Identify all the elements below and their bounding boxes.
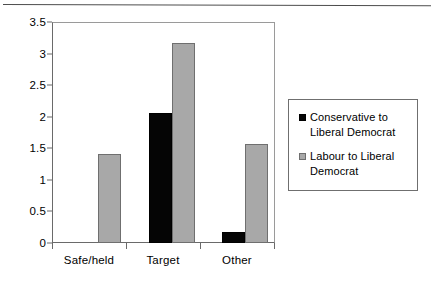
- legend-swatch-icon: [299, 114, 306, 121]
- y-tick-label: 0: [39, 237, 46, 249]
- legend-label-line2: Liberal Democrat: [310, 126, 395, 138]
- legend-label-line2: Democrat: [310, 165, 358, 177]
- bar-group-other: [200, 23, 274, 243]
- bar-labour-safe-held: [98, 154, 121, 243]
- legend-label-conservative: Conservative toLiberal Democrat: [310, 110, 395, 139]
- y-axis: 3.5 3 2.5 2 1.5 1 0.5 0: [0, 22, 46, 243]
- header-divider-rule: [3, 4, 431, 6]
- y-tick-label: 3.5: [29, 16, 46, 28]
- x-tick-mark: [126, 243, 127, 249]
- y-tick-label: 2.5: [29, 79, 46, 91]
- legend-item-labour: Labour to LiberalDemocrat: [299, 149, 413, 178]
- bar-labour-target: [172, 43, 195, 244]
- legend-label-line1: Conservative to: [310, 111, 388, 123]
- bar-conservative-other: [222, 232, 245, 243]
- bar-conservative-target: [149, 113, 172, 243]
- y-tick-label: 3: [39, 48, 46, 60]
- legend-item-conservative: Conservative toLiberal Democrat: [299, 110, 413, 139]
- legend-label-labour: Labour to LiberalDemocrat: [310, 149, 394, 178]
- bar-group-target: [127, 23, 201, 243]
- bars-layer: [53, 23, 274, 243]
- x-cat-label-safe-held: Safe/held: [64, 253, 114, 267]
- x-cat-label-other: Other: [222, 253, 252, 267]
- x-tick-mark: [52, 243, 53, 249]
- y-tick-label: 2: [39, 111, 46, 123]
- x-cat-label-target: Target: [146, 253, 179, 267]
- legend: Conservative toLiberal Democrat Labour t…: [288, 99, 418, 191]
- chart-page: 3.5 3 2.5 2 1.5 1 0.5 0: [0, 0, 433, 285]
- x-tick-mark: [274, 243, 275, 249]
- y-tick-label: 1: [39, 174, 46, 186]
- y-tick-label: 1.5: [29, 142, 46, 154]
- bar-labour-other: [245, 144, 268, 243]
- x-axis: Safe/held Target Other: [52, 253, 275, 273]
- legend-swatch-icon: [299, 153, 306, 160]
- legend-label-line1: Labour to Liberal: [310, 150, 394, 162]
- y-tick-label: 0.5: [29, 205, 46, 217]
- bar-group-safe-held: [53, 23, 127, 243]
- x-tick-mark: [200, 243, 201, 249]
